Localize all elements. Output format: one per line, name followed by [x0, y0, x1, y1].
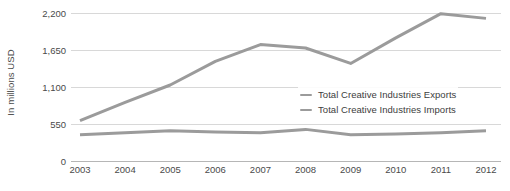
- x-tick-label: 2010: [385, 164, 406, 175]
- x-tick-label: 2009: [340, 164, 361, 175]
- x-tick-label: 2007: [250, 164, 271, 175]
- y-axis-title-label: In millions USD: [5, 49, 16, 115]
- x-tick-label: 2005: [160, 164, 181, 175]
- y-tick-label: 0: [18, 156, 66, 167]
- series-line-imports: [80, 129, 486, 134]
- y-tick-label: 1,650: [18, 45, 66, 56]
- y-tick-label: 2,200: [18, 8, 66, 19]
- x-tick-label: 2011: [431, 164, 451, 175]
- x-tick-label: 2006: [205, 164, 226, 175]
- legend-item-imports[interactable]: Total Creative Industries Imports: [300, 103, 456, 116]
- y-axis-tick-labels: 05501,1001,6502,200: [18, 0, 66, 191]
- y-tick-label: 550: [18, 119, 66, 130]
- x-axis-tick-labels: 2003200420052006200720082009201020112012: [71, 164, 503, 184]
- legend-swatch-exports: [300, 94, 312, 96]
- legend-item-exports[interactable]: Total Creative Industries Exports: [300, 88, 456, 101]
- legend-label-exports: Total Creative Industries Exports: [318, 89, 456, 100]
- line-chart: In millions USD 05501,1001,6502,200 2003…: [0, 0, 510, 191]
- x-tick-label: 2012: [475, 164, 496, 175]
- x-tick-label: 2008: [295, 164, 316, 175]
- legend-label-imports: Total Creative Industries Imports: [318, 104, 456, 115]
- x-tick-label: 2003: [69, 164, 90, 175]
- x-tick-label: 2004: [115, 164, 136, 175]
- y-axis-title: In millions USD: [0, 0, 20, 165]
- y-tick-label: 1,100: [18, 82, 66, 93]
- legend-swatch-imports: [300, 109, 312, 111]
- chart-legend: Total Creative Industries Exports Total …: [298, 87, 458, 117]
